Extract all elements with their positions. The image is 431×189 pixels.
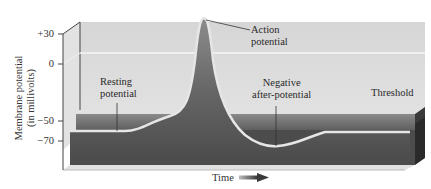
y-axis (58, 34, 63, 170)
negative-after-potential-label: Negative after-potential (252, 77, 311, 101)
action-potential-label: Action potential (251, 24, 288, 48)
right-arrow-icon (239, 173, 269, 182)
x-axis-label: Time (212, 172, 234, 183)
action-potential-diagram: +30 0 −50 −70 Membrane potential (in mil… (0, 0, 431, 189)
threshold-label: Threshold (371, 87, 414, 99)
y-axis-label-line1: Membrane potential (13, 33, 25, 163)
y-axis-label-line2: (in millivolts) (25, 33, 37, 163)
y-axis-label: Membrane potential (in millivolts) (13, 33, 37, 163)
diagram-graphic (0, 0, 431, 189)
resting-potential-label: Resting potential (100, 76, 137, 100)
